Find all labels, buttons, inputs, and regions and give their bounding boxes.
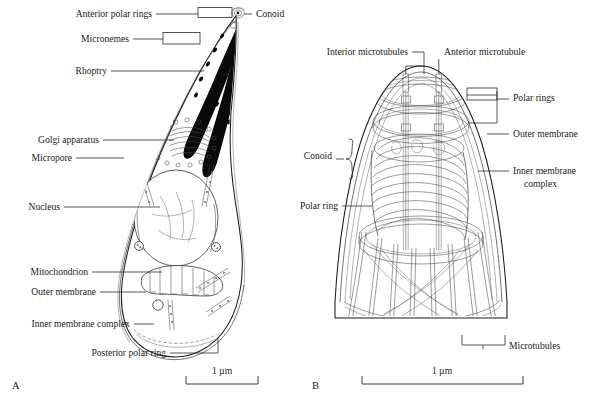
label-golgi-apparatus: Golgi apparatus (38, 134, 99, 145)
scale-bar-a: 1 µm (186, 365, 258, 384)
label-micropore: Micropore (32, 152, 73, 163)
conoid-structure-a (232, 8, 245, 18)
panel-letter-b: B (312, 380, 319, 391)
figure-container: Anterior polar rings Conoid Micronemes R… (0, 0, 594, 401)
label-outer-membrane-b: Outer membrane (513, 128, 578, 139)
label-outer-membrane: Outer membrane (31, 286, 96, 297)
label-nucleus: Nucleus (29, 201, 61, 212)
scale-bar-b: 1 µm (362, 365, 523, 384)
label-microtubules: Microtubules (509, 340, 560, 351)
label-anterior-polar-rings: Anterior polar rings (76, 8, 152, 19)
panel-a: Anterior polar rings Conoid Micronemes R… (12, 8, 284, 392)
scale-bar-a-label: 1 µm (212, 365, 233, 376)
label-polar-ring-b: Polar ring (300, 200, 338, 211)
label-conoid: Conoid (256, 8, 284, 19)
label-inner-membrane-complex-b-line2: complex (524, 178, 557, 189)
label-polar-rings: Polar rings (513, 92, 555, 103)
label-posterior-polar-ring: Posterior polar ring (91, 347, 166, 358)
label-conoid-b: Conoid (304, 150, 332, 161)
label-interior-microtubules: Interior microtubules (327, 46, 409, 57)
panel-letter-a: A (12, 380, 20, 391)
label-inner-membrane-complex-b: Inner membrane (513, 165, 576, 176)
label-micronemes: Micronemes (81, 33, 129, 44)
panel-b: Interior microtubules Anterior microtubu… (300, 46, 578, 391)
scale-bar-b-label: 1 µm (432, 365, 453, 376)
diagram-svg: Anterior polar rings Conoid Micronemes R… (0, 0, 594, 401)
micropore-structure (123, 160, 132, 169)
label-anterior-microtubule: Anterior microtubule (444, 46, 525, 57)
label-rhoptry: Rhoptry (76, 65, 108, 76)
label-inner-membrane-complex: Inner membrane complex (31, 318, 130, 329)
label-mitochondrion: Mitochondrion (30, 266, 88, 277)
apical-vesicle (164, 117, 173, 126)
